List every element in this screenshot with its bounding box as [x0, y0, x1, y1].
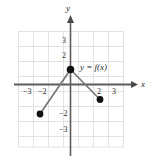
coordinate-plane-svg — [0, 0, 153, 160]
x-tick-label--2: −2 — [38, 88, 47, 96]
x-tick-label-3: 3 — [112, 88, 116, 96]
graph-figure: −3 −2 2 3 3 2 −2 −3 y x y = f(x) — [0, 0, 153, 160]
y-tick-label--3: −3 — [59, 126, 68, 134]
x-axis — [14, 81, 138, 88]
y-axis-label: y — [66, 4, 70, 13]
function-label: y = f(x) — [80, 63, 107, 72]
y-tick-label-3: 3 — [62, 37, 66, 45]
data-point-vertex — [67, 66, 75, 74]
y-tick-label-2: 2 — [62, 52, 66, 60]
data-point-right — [97, 96, 104, 103]
x-tick-label--3: −3 — [23, 88, 32, 96]
y-tick-label--2: −2 — [59, 110, 68, 118]
x-axis-label: x — [141, 80, 145, 89]
x-tick-label-2: 2 — [97, 88, 101, 96]
y-axis — [67, 15, 74, 156]
data-point-left — [37, 111, 44, 118]
